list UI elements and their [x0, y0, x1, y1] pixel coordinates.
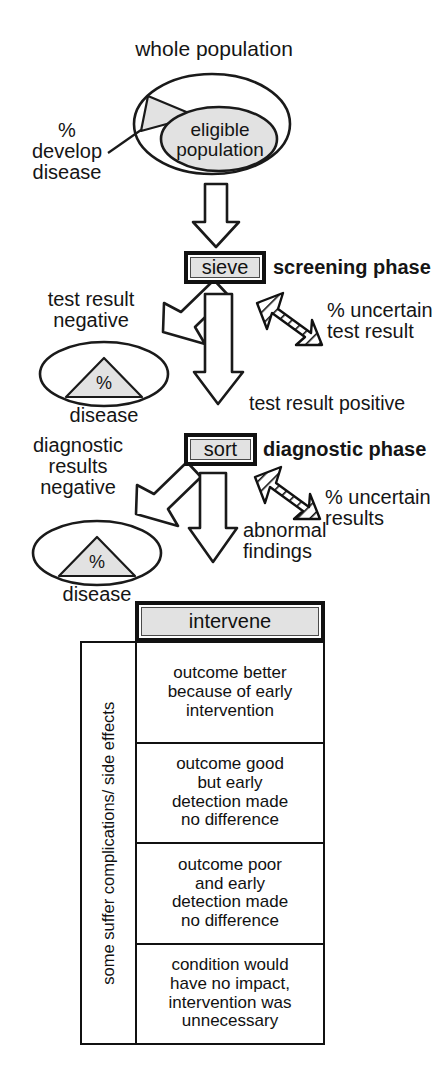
outcome-cell-2: outcome good but early detection made no… [137, 744, 323, 845]
diagnostic-results-negative-label: diagnostic results negative [8, 435, 148, 499]
screening-pathway-diagram: whole population eligible population % d… [0, 0, 448, 1089]
side-effects-label: some suffer complications/ side effects [99, 702, 117, 985]
uncertain-results-arrow [255, 467, 320, 519]
outcome-cell-3: outcome poor and early detection made no… [137, 844, 323, 945]
abnormal-findings-label: abnormal findings [243, 520, 393, 562]
diagnostic-phase-label: diagnostic phase [263, 439, 448, 460]
outcome-table: some suffer complications/ side effects … [80, 641, 325, 1045]
side-effects-column: some suffer complications/ side effects [80, 641, 135, 1045]
test-result-positive-label: test result positive [249, 393, 448, 414]
outcome-cell-4: condition would have no impact, interven… [137, 945, 323, 1044]
uncertain-test-result-label: % uncertain test result [327, 300, 448, 342]
diagnostic-negative-percent: % [77, 553, 117, 572]
intervene-box[interactable]: intervene [135, 601, 325, 642]
test-result-negative-label: test result negative [22, 289, 160, 331]
whole-population-label: whole population [94, 38, 334, 60]
sieve-box[interactable]: sieve [184, 251, 266, 284]
outcome-cell-1: outcome better because of early interven… [137, 643, 323, 744]
arrow-sort-to-intervene [189, 473, 237, 562]
intervene-box-label: intervene [141, 607, 319, 636]
develop-disease-label: % develop disease [20, 120, 114, 184]
test-result-negative-percent: % [84, 374, 124, 393]
uncertain-test-result-arrow [257, 293, 322, 345]
sort-box-label: sort [190, 439, 251, 460]
sort-box[interactable]: sort [184, 433, 257, 466]
eligible-population-label: eligible population [161, 120, 279, 160]
outcome-cells: outcome better because of early interven… [135, 641, 325, 1045]
arrow-population-to-sieve [193, 184, 239, 247]
sieve-box-label: sieve [190, 257, 260, 278]
test-result-negative-caption: disease [50, 405, 158, 426]
screening-phase-label: screening phase [273, 257, 448, 278]
